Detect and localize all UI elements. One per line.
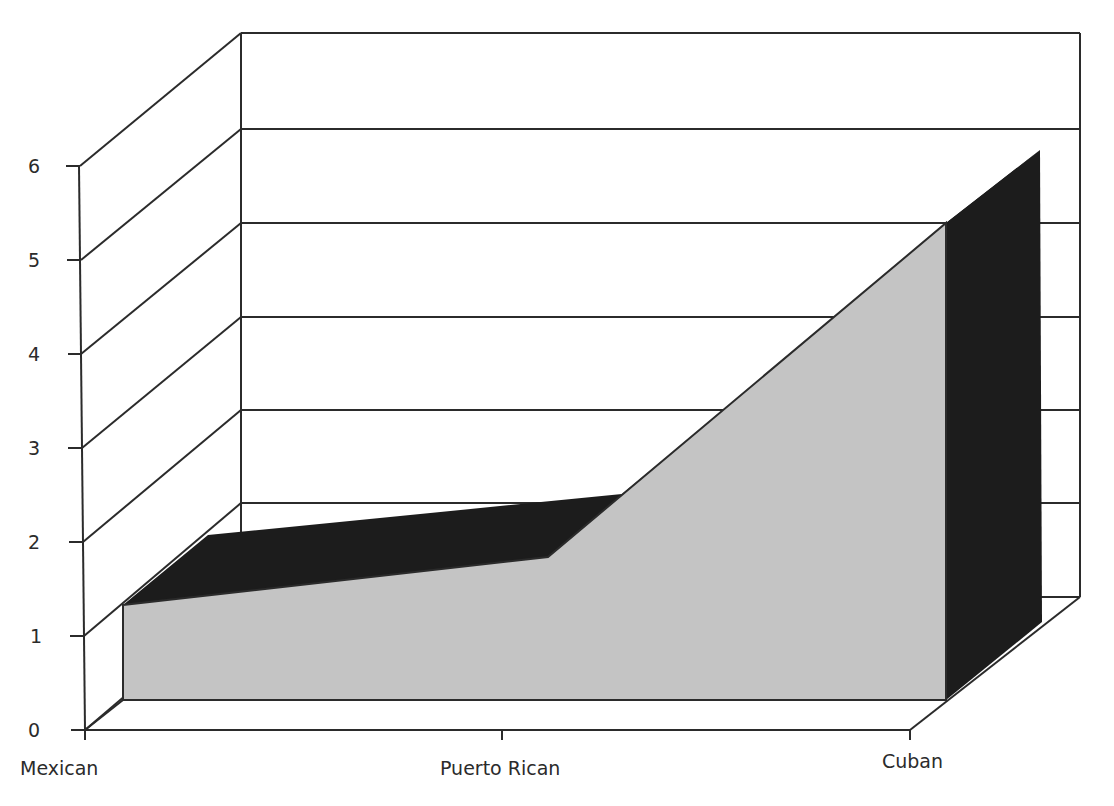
area-series — [85, 150, 1042, 730]
x-axis-ticks — [85, 730, 910, 740]
x-label-mexican: Mexican — [20, 757, 98, 779]
x-label-cuban: Cuban — [882, 750, 943, 772]
y-tick-2: 2 — [28, 531, 40, 553]
y-axis — [66, 166, 85, 730]
area-chart-3d: 6 5 4 3 2 1 0 Mexican Puerto Rican Cuban — [0, 0, 1114, 806]
y-tick-3: 3 — [28, 437, 40, 459]
area-side-face — [946, 150, 1042, 700]
y-tick-labels: 6 5 4 3 2 1 0 — [28, 155, 42, 741]
y-tick-6: 6 — [28, 155, 40, 177]
x-category-labels: Mexican Puerto Rican Cuban — [20, 750, 943, 779]
x-label-puerto-rican: Puerto Rican — [440, 757, 560, 779]
y-tick-1: 1 — [30, 625, 42, 647]
area-front-face — [123, 223, 946, 700]
y-tick-4: 4 — [28, 343, 40, 365]
y-tick-5: 5 — [28, 249, 40, 271]
y-tick-0: 0 — [28, 719, 40, 741]
